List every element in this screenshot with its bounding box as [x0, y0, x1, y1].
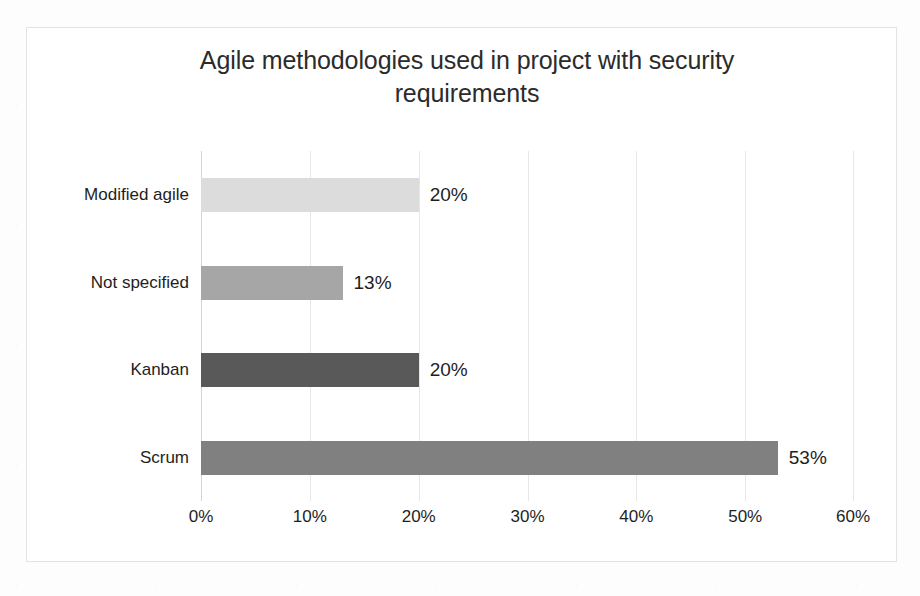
bar-not-specified[interactable]: [201, 266, 343, 300]
bar-row: 20%: [201, 151, 854, 239]
xtick-20: 20%: [402, 507, 436, 527]
bar-value-label-kanban: 20%: [419, 353, 468, 387]
category-label-modified-agile: Modified agile: [84, 178, 201, 212]
category-label-not-specified: Not specified: [91, 266, 201, 300]
bar-kanban[interactable]: [201, 353, 419, 387]
bar-value-label-not-specified: 13%: [343, 266, 392, 300]
chart-title: Agile methodologies used in project with…: [137, 44, 797, 110]
xtick-40: 40%: [619, 507, 653, 527]
bar-row: 13%: [201, 239, 854, 327]
y-axis-category-labels: Modified agile Not specified Kanban Scru…: [27, 151, 201, 501]
bar-row: 53%: [201, 414, 854, 502]
plot-area: 20% 13% 20% 53%: [201, 151, 854, 501]
bar-value-label-modified-agile: 20%: [419, 178, 468, 212]
xtick-10: 10%: [293, 507, 327, 527]
xtick-30: 30%: [510, 507, 544, 527]
xtick-50: 50%: [728, 507, 762, 527]
chart-frame: Agile methodologies used in project with…: [26, 27, 897, 562]
category-label-scrum: Scrum: [140, 441, 201, 475]
category-label-kanban: Kanban: [130, 353, 201, 387]
bar-row: 20%: [201, 326, 854, 414]
bar-value-label-scrum: 53%: [778, 441, 827, 475]
bar-modified-agile[interactable]: [201, 178, 419, 212]
xtick-60: 60%: [836, 507, 870, 527]
bar-scrum[interactable]: [201, 441, 778, 475]
x-axis-tick-labels: 0% 10% 20% 30% 40% 50% 60%: [201, 507, 854, 547]
xtick-0: 0%: [189, 507, 214, 527]
scanned-page: Agile methodologies used in project with…: [0, 0, 920, 596]
